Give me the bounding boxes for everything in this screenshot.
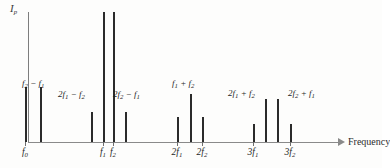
peak-annotation: 2f2 + f1 bbox=[288, 88, 315, 98]
tick-subscript: 2 bbox=[292, 151, 295, 158]
x-axis-tick bbox=[25, 142, 26, 146]
peak-annotation: 2f1 + f2 bbox=[228, 88, 255, 98]
annot-operator: + bbox=[178, 78, 189, 88]
spectral-peak bbox=[290, 124, 292, 142]
spectral-peak bbox=[253, 124, 255, 142]
annot-term1-sub: 1 bbox=[175, 82, 178, 89]
x-axis-tick-label: 3f1 bbox=[248, 147, 259, 157]
annot-operator: + bbox=[298, 88, 309, 98]
x-axis-tick bbox=[103, 142, 104, 146]
spectral-peak bbox=[190, 94, 192, 142]
annot-operator: + bbox=[238, 88, 249, 98]
x-axis-tick-label: 2f1 bbox=[172, 147, 183, 157]
peak-annotation: f1 + f2 bbox=[172, 78, 194, 88]
x-axis-arrow-icon bbox=[338, 138, 345, 146]
spectral-peak bbox=[125, 112, 127, 142]
x-axis-tick bbox=[253, 142, 254, 146]
tick-subscript: 0 bbox=[25, 151, 28, 158]
spectral-peak bbox=[103, 12, 105, 142]
annot-operator: − bbox=[28, 78, 39, 88]
annot-term2-sub: 2 bbox=[82, 93, 85, 100]
x-axis-tick-label: f2 bbox=[110, 147, 116, 157]
peak-annotation: 2f1 − f2 bbox=[58, 89, 85, 99]
x-axis-tick bbox=[113, 142, 114, 146]
spectral-peak bbox=[40, 87, 42, 142]
annot-term1-sub: 2 bbox=[25, 82, 28, 89]
spectral-peak bbox=[265, 99, 267, 142]
x-axis-tick bbox=[290, 142, 291, 146]
spectral-peak bbox=[25, 87, 27, 142]
tick-subscript: 1 bbox=[103, 151, 106, 158]
annot-term1-sub: 2 bbox=[120, 93, 123, 100]
annot-term2-sub: 1 bbox=[41, 82, 44, 89]
y-axis-label-sub: p bbox=[14, 8, 17, 15]
tick-subscript: 1 bbox=[255, 151, 258, 158]
spectral-peak bbox=[277, 99, 279, 142]
annot-term2-sub: 2 bbox=[191, 82, 194, 89]
tick-subscript: 2 bbox=[113, 151, 116, 158]
annot-term1-sub: 1 bbox=[65, 93, 68, 100]
tick-subscript: 2 bbox=[204, 151, 207, 158]
x-axis-tick-label: f0 bbox=[22, 147, 28, 157]
spectral-peak bbox=[177, 117, 179, 142]
peak-annotation: f2 − f1 bbox=[22, 78, 44, 88]
annot-operator: − bbox=[123, 89, 134, 99]
spectral-peak bbox=[113, 12, 115, 142]
spectral-peak bbox=[202, 117, 204, 142]
spectral-peak bbox=[91, 112, 93, 142]
x-axis-tick bbox=[202, 142, 203, 146]
annot-term2-sub: 1 bbox=[137, 93, 140, 100]
x-axis-tick-label: 2f2 bbox=[197, 147, 208, 157]
x-axis-line bbox=[28, 142, 340, 143]
annot-term2-sub: 2 bbox=[252, 92, 255, 99]
annot-term1-sub: 1 bbox=[235, 92, 238, 99]
annot-term1-sub: 2 bbox=[295, 92, 298, 99]
tick-subscript: 1 bbox=[179, 151, 182, 158]
x-axis-tick bbox=[177, 142, 178, 146]
y-axis-label: Ip bbox=[10, 2, 17, 14]
annot-operator: − bbox=[68, 89, 79, 99]
peak-annotation: 2f2 − f1 bbox=[113, 89, 140, 99]
x-axis-tick-label: 3f2 bbox=[285, 147, 296, 157]
x-axis-label: Frequency bbox=[348, 136, 390, 147]
annot-term2-sub: 1 bbox=[312, 92, 315, 99]
x-axis-tick-label: f1 bbox=[100, 147, 106, 157]
